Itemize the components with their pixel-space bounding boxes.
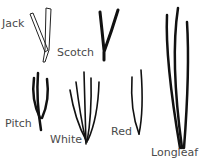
pine-needle-drawings — [0, 0, 205, 160]
label-white: White — [50, 134, 82, 145]
label-longleaf: Longleaf — [151, 147, 198, 158]
label-pitch: Pitch — [5, 118, 32, 129]
longleaf-pine-needles-drawing — [167, 8, 188, 148]
red-pine-needles-drawing — [132, 70, 142, 134]
scotch-pine-needles-drawing — [100, 10, 118, 60]
label-jack: Jack — [2, 18, 24, 29]
label-scotch: Scotch — [57, 47, 94, 58]
pitch-pine-needles-drawing — [33, 73, 48, 130]
jack-pine-needles-drawing — [30, 8, 51, 62]
label-red: Red — [111, 126, 132, 137]
